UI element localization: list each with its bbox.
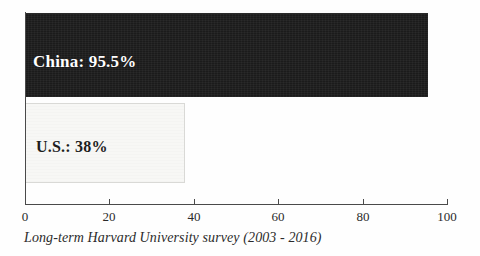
- y-axis-line: [25, 12, 26, 205]
- x-axis-line: [25, 204, 448, 205]
- x-tick-100: [447, 199, 448, 205]
- bar-label-us: U.S.: 38%: [36, 138, 108, 156]
- bar-chart: China: 95.5% U.S.: 38% 0 20 40 60 80 100…: [0, 0, 480, 256]
- x-tick-40: [194, 199, 195, 205]
- x-tick-label-100: 100: [437, 209, 457, 225]
- x-tick-label-80: 80: [357, 209, 370, 225]
- bar-label-china: China: 95.5%: [33, 52, 136, 72]
- bar-china: China: 95.5%: [25, 13, 428, 97]
- x-tick-60: [278, 199, 279, 205]
- x-tick-20: [109, 199, 110, 205]
- x-tick-label-0: 0: [22, 209, 29, 225]
- x-tick-label-60: 60: [272, 209, 285, 225]
- bar-us: U.S.: 38%: [25, 103, 185, 183]
- plot-area: China: 95.5% U.S.: 38%: [25, 8, 447, 205]
- x-tick-label-40: 40: [188, 209, 201, 225]
- x-tick-80: [363, 199, 364, 205]
- x-tick-0: [25, 199, 26, 205]
- chart-caption: Long-term Harvard University survey (200…: [24, 230, 322, 246]
- x-tick-label-20: 20: [103, 209, 116, 225]
